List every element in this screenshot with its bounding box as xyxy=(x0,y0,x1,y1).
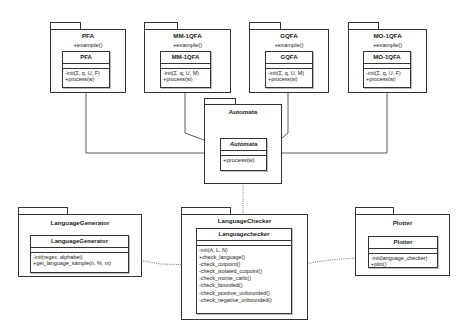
class-operations: -init(Σ, q, U, F) +process(w) xyxy=(364,69,410,84)
class-plotter[interactable]: Plotter -init(language_checker) +plot() xyxy=(368,236,438,268)
operation: -check_negative_unbounded() xyxy=(199,297,289,304)
class-mm1qfa[interactable]: MM-1QFA -init(Σ, q, U, M) +process(w) xyxy=(160,51,211,88)
operation: -check_monte_carlo() xyxy=(199,275,289,282)
operation: -check_positive_unbounded() xyxy=(199,290,289,297)
operation: +process(w) xyxy=(268,76,310,82)
class-name: GQFA xyxy=(266,52,312,64)
generalization-mo1qfa-automata xyxy=(267,92,387,153)
class-operations: -init(language_checker) +plot() xyxy=(369,254,437,269)
class-operations: +process(w) xyxy=(221,156,266,164)
operation: -check_isolated_cutpoint() xyxy=(199,268,289,275)
operation: +process(w) xyxy=(223,157,264,163)
operation: +process(w) xyxy=(366,76,408,82)
package-title: Plotter xyxy=(356,219,449,226)
operation: +process(w) xyxy=(65,76,107,82)
class-name: Automata xyxy=(221,139,266,151)
package-operation: +example() xyxy=(250,42,328,48)
class-operations: -init(A, L, N) +check_language() -check_… xyxy=(197,246,291,305)
class-operations: -init(Σ, q, U, F) +process(w) xyxy=(63,69,109,84)
class-pfa[interactable]: PFA -init(Σ, q, U, F) +process(w) xyxy=(62,51,110,88)
class-gqfa[interactable]: GQFA -init(Σ, q, U, M) +process(w) xyxy=(265,51,313,88)
package-title: PFA xyxy=(51,32,125,39)
class-language-generator[interactable]: LanguageGenerator -init(regex, alphabet)… xyxy=(30,235,129,273)
operation: -init(A, L, N) xyxy=(199,247,289,254)
package-title: GQFA xyxy=(250,32,328,39)
package-operation: +example() xyxy=(145,42,230,48)
operation: +get_language_sample(n, %, m) xyxy=(33,260,126,266)
class-name: Languagechecker xyxy=(197,229,291,241)
operation: +plot() xyxy=(371,261,435,267)
class-name: PFA xyxy=(63,52,109,64)
generalization-pfa-automata xyxy=(86,92,219,153)
package-title: MO-1QFA xyxy=(349,32,426,39)
operation: +check_language() xyxy=(199,254,289,261)
class-mo1qfa[interactable]: MO-1QFA -init(Σ, q, U, F) +process(w) xyxy=(363,51,411,88)
class-automata[interactable]: Automata +process(w) xyxy=(220,138,267,171)
package-title: Automata xyxy=(205,108,281,115)
class-language-checker[interactable]: Languagechecker -init(A, L, N) +check_la… xyxy=(196,228,292,314)
operation: -check_cutpoint() xyxy=(199,261,289,268)
class-name: LanguageGenerator xyxy=(31,236,128,248)
class-operations: -init(regex, alphabet) +get_language_sam… xyxy=(31,253,128,268)
class-name: MO-1QFA xyxy=(364,52,410,64)
package-title: LanguageGenerator xyxy=(19,219,141,226)
operation: -check_bounded() xyxy=(199,282,289,289)
package-operation: +example() xyxy=(349,42,426,48)
class-name: MM-1QFA xyxy=(161,52,210,64)
operation: +process(w) xyxy=(163,76,208,82)
package-operation: +example() xyxy=(51,42,125,48)
class-operations: -init(Σ, q, U, M) +process(w) xyxy=(161,69,210,84)
package-title: MM-1QFA xyxy=(145,32,230,39)
class-name: Plotter xyxy=(369,237,437,249)
package-title: LanguageChecker xyxy=(182,217,307,224)
class-operations: -init(Σ, q, U, M) +process(w) xyxy=(266,69,312,84)
